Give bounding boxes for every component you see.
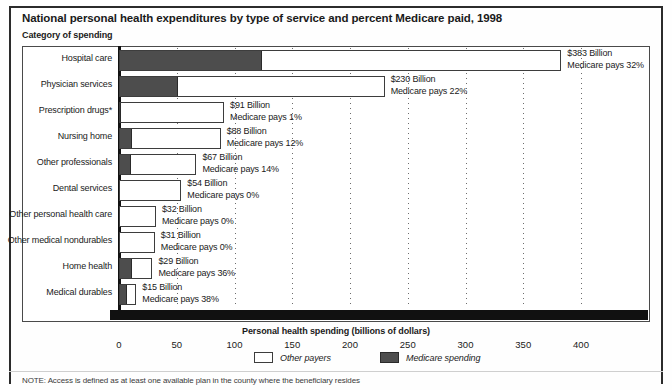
category-label: Dental services <box>0 183 112 193</box>
x-axis-line <box>110 310 648 320</box>
footnote: NOTE: Access is defined as at least one … <box>22 376 662 388</box>
x-tick-label-150: 150 <box>284 339 300 350</box>
bar-value-label: $67 BillionMedicare pays 14% <box>202 152 279 175</box>
bar-value-share: Medicare pays 12% <box>227 138 304 150</box>
bar-total <box>119 76 385 97</box>
bar-segment-medicare <box>120 51 262 70</box>
bar-value-label: $54 BillionMedicare pays 0% <box>187 178 259 201</box>
bar-value-share: Medicare pays 0% <box>161 242 233 254</box>
bar-value-share: Medicare pays 22% <box>391 86 468 98</box>
category-label: Medical durables <box>0 287 112 297</box>
bar-value-share: Medicare pays 32% <box>567 60 644 72</box>
bar-value-amount: $67 Billion <box>202 152 242 162</box>
bar-value-share: Medicare pays 14% <box>202 164 279 176</box>
bar-total <box>119 102 224 123</box>
legend-item-medicare-spending: Medicare spending <box>380 352 480 363</box>
bar-total <box>119 50 561 71</box>
bar-row: Other personal health care$32 BillionMed… <box>22 204 650 230</box>
legend-swatch-other-payers <box>254 352 273 363</box>
bar-value-label: $91 BillionMedicare pays 1% <box>230 100 302 123</box>
bar-value-label: $383 BillionMedicare pays 32% <box>567 48 644 71</box>
bar-value-label: $230 BillionMedicare pays 22% <box>391 74 468 97</box>
bar-segment-medicare <box>120 77 178 96</box>
bar-rows: Hospital care$383 BillionMedicare pays 3… <box>22 46 650 310</box>
x-tick-label-300: 300 <box>458 339 474 350</box>
page-title: National personal health expenditures by… <box>22 12 502 24</box>
plot-area: Hospital care$383 BillionMedicare pays 3… <box>22 46 650 322</box>
bar-row: Medical durables$15 BillionMedicare pays… <box>22 282 650 308</box>
bar-segment-medicare <box>120 259 132 278</box>
bar-value-amount: $88 Billion <box>227 126 267 136</box>
legend-label-medicare-spending: Medicare spending <box>406 353 480 363</box>
legend-label-other-payers: Other payers <box>280 353 331 363</box>
x-tick-label-400: 400 <box>573 339 589 350</box>
bar-value-share: Medicare pays 36% <box>158 268 235 280</box>
chart-legend: Other payers Medicare spending <box>22 352 650 368</box>
category-label: Other personal health care <box>0 209 112 219</box>
bar-row: Physician services$230 BillionMedicare p… <box>22 74 650 100</box>
bar-value-amount: $29 Billion <box>158 256 198 266</box>
category-label: Hospital care <box>0 53 112 63</box>
bar-value-label: $29 BillionMedicare pays 36% <box>158 256 235 279</box>
bar-total <box>119 154 196 175</box>
bar-row: Other medical nondurables$31 BillionMedi… <box>22 230 650 256</box>
page-border-right <box>661 6 663 384</box>
bar-row: Nursing home$88 BillionMedicare pays 12% <box>22 126 650 152</box>
category-label: Prescription drugs* <box>0 105 112 115</box>
bar-row: Home health$29 BillionMedicare pays 36% <box>22 256 650 282</box>
x-tick-label-50: 50 <box>171 339 182 350</box>
bar-value-amount: $54 Billion <box>187 178 227 188</box>
bar-row: Prescription drugs*$91 BillionMedicare p… <box>22 100 650 126</box>
x-tick-label-200: 200 <box>342 339 358 350</box>
bar-total <box>119 128 221 149</box>
x-tick-label-100: 100 <box>227 339 243 350</box>
bar-total <box>119 232 155 253</box>
bar-value-amount: $91 Billion <box>230 100 270 110</box>
axis-title-category: Category of spending <box>22 30 113 40</box>
bar-value-share: Medicare pays 38% <box>142 294 219 306</box>
bar-value-amount: $31 Billion <box>161 230 201 240</box>
bar-value-share: Medicare pays 0% <box>187 190 259 202</box>
bar-segment-medicare <box>120 155 131 174</box>
bar-value-label: $88 BillionMedicare pays 12% <box>227 126 304 149</box>
bar-total <box>119 284 136 305</box>
bar-value-share: Medicare pays 0% <box>162 216 234 228</box>
bar-value-label: $31 BillionMedicare pays 0% <box>161 230 233 253</box>
bar-row: Dental services$54 BillionMedicare pays … <box>22 178 650 204</box>
bar-value-share: Medicare pays 1% <box>230 112 302 124</box>
bar-row: Other professionals$67 BillionMedicare p… <box>22 152 650 178</box>
bar-value-label: $15 BillionMedicare pays 38% <box>142 282 219 305</box>
bar-total <box>119 180 181 201</box>
bar-segment-medicare <box>120 129 132 148</box>
page-border-top <box>9 6 663 8</box>
bar-row: Hospital care$383 BillionMedicare pays 3… <box>22 48 650 74</box>
bar-segment-medicare <box>120 285 127 304</box>
bar-value-label: $32 BillionMedicare pays 0% <box>162 204 234 227</box>
bar-segment-medicare <box>120 103 121 122</box>
legend-item-other-payers: Other payers <box>254 352 331 363</box>
category-label: Other medical nondurables <box>0 235 112 245</box>
x-tick-label-250: 250 <box>400 339 416 350</box>
bar-total <box>119 206 156 227</box>
bar-value-amount: $383 Billion <box>567 48 612 58</box>
x-tick-label-0: 0 <box>116 339 121 350</box>
category-label: Nursing home <box>0 131 112 141</box>
category-label: Physician services <box>0 79 112 89</box>
chart-page: National personal health expenditures by… <box>0 0 672 390</box>
category-label: Home health <box>0 261 112 271</box>
bar-total <box>119 258 152 279</box>
category-label: Other professionals <box>0 157 112 167</box>
bar-value-amount: $230 Billion <box>391 74 436 84</box>
bar-value-amount: $32 Billion <box>162 204 202 214</box>
x-tick-label-350: 350 <box>515 339 531 350</box>
note-divider <box>9 371 663 372</box>
bar-value-amount: $15 Billion <box>142 282 182 292</box>
x-axis-ticks: 050100150200250300350400 <box>22 339 650 353</box>
x-axis-title: Personal health spending (billions of do… <box>22 326 650 336</box>
legend-swatch-medicare-spending <box>380 352 399 363</box>
